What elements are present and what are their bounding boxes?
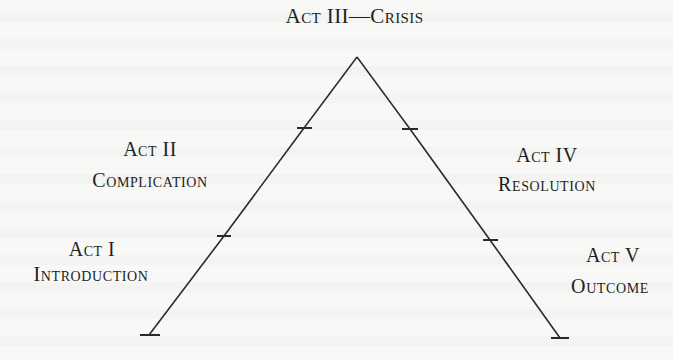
act3-crisis-label: Act III—Crisis — [272, 6, 437, 27]
act5-label: Act V — [561, 245, 665, 265]
rising-line-to-apex — [304, 57, 357, 128]
falling-line-act4-act5 — [490, 240, 560, 338]
falling-line-from-apex — [357, 57, 410, 129]
act1-label: Act I — [40, 239, 144, 259]
act4-label: Act IV — [495, 145, 599, 165]
diagram-page: Act III—Crisis Act II Complication Act I… — [0, 0, 673, 360]
act5-phase-label: Outcome — [555, 276, 665, 296]
falling-line-act3-act4 — [410, 129, 490, 240]
rising-line-act2-act3 — [224, 128, 304, 236]
act2-phase-label: Complication — [70, 170, 230, 190]
act4-phase-label: Resolution — [482, 174, 612, 194]
act2-label: Act II — [98, 139, 202, 159]
rising-line-act1-act2 — [149, 236, 224, 335]
act1-phase-label: Introduction — [15, 264, 167, 284]
